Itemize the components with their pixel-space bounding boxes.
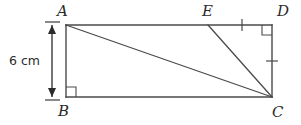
dimension-label-6cm: 6 cm — [9, 55, 40, 68]
geometry-figure: A B C D E 6 cm — [0, 0, 301, 125]
right-angle-marker-D — [262, 25, 272, 35]
vertex-label-A: A — [57, 4, 68, 19]
geometry-canvas — [0, 0, 301, 125]
segment-AC — [66, 25, 272, 97]
vertex-label-C: C — [272, 105, 283, 120]
vertex-label-B: B — [58, 104, 69, 119]
vertex-label-E: E — [202, 4, 213, 19]
right-angle-marker-B — [66, 87, 76, 97]
dimension-arrowhead-up-icon — [48, 25, 56, 34]
vertex-label-D: D — [277, 4, 289, 19]
dimension-arrowhead-down-icon — [48, 88, 56, 97]
